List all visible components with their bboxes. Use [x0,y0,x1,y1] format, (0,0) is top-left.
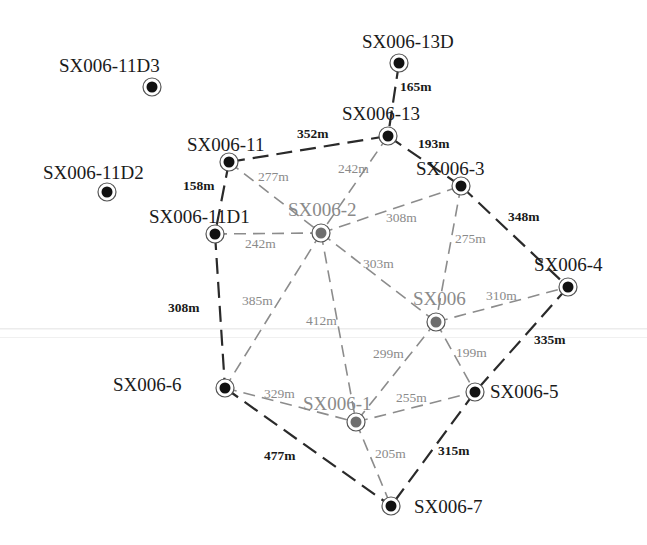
edge-distance-label: 165m [400,79,432,94]
well-node-sx006-2 [312,224,330,242]
well-dot-icon [102,187,113,198]
well-node-sx006-13 [379,127,397,145]
well-dot-icon [316,228,327,239]
edge-distance-label: 310m [486,288,517,303]
edge-distance-label: 303m [363,256,394,271]
well-dot-icon [456,181,467,192]
edge-distance-label: 193m [418,136,450,151]
well-dot-icon [147,82,158,93]
well-label: SX006-4 [534,254,603,275]
well-label: SX006-13 [342,103,420,124]
well-label: SX006-7 [414,496,483,517]
edge-distance-label: 255m [396,390,427,405]
well-node-sx006-11 [220,153,238,171]
well-node-sx006-11d3 [143,78,161,96]
well-label: SX006-11D1 [149,206,250,227]
well-node-sx006-6 [216,379,234,397]
well-node-sx006-11d2 [98,183,116,201]
edge-distance-label: 275m [455,231,486,246]
well-node-sx006-4 [559,278,577,296]
well-node-sx006-7 [382,497,400,515]
well-label: SX006-1 [303,393,372,414]
edge-distance-label: 158m [183,178,215,193]
well-node-sx006-5 [466,383,484,401]
edge-distance-label: 242m [245,236,276,251]
edge-distance-label: 242m [338,161,369,176]
well-label: SX006-5 [490,381,559,402]
well-node-sx006-13d [390,54,408,72]
well-label: SX006-11D3 [59,55,160,76]
well-label: SX006-3 [416,158,485,179]
well-dot-icon [431,317,442,328]
well-dot-icon [470,387,481,398]
edge-distance-label: 308m [168,300,200,315]
edge-distance-label: 335m [534,332,566,347]
well-dot-icon [386,501,397,512]
edge-sx006-11d1-to-sx006-6 [215,234,225,388]
edge-distance-label: 299m [373,346,404,361]
well-node-sx006 [427,313,445,331]
edge-sx006-13d-to-sx006-13 [388,63,399,136]
well-dot-icon [224,157,235,168]
well-dot-icon [383,131,394,142]
well-dot-icon [220,383,231,394]
well-dot-icon [563,282,574,293]
edge-distance-label: 277m [258,169,289,184]
edge-distance-label: 348m [508,209,540,224]
well-label: SX006-6 [113,374,182,395]
well-node-sx006-11d1 [206,225,224,243]
edge-distance-label: 329m [264,386,295,401]
edge-distance-label: 412m [306,313,337,328]
faint-horizontal-band [0,328,647,330]
edge-distance-label: 352m [297,126,329,141]
node-labels-layer: SX006-11D3SX006-13DSX006-13SX006-11SX006… [43,31,603,517]
well-dot-icon [394,58,405,69]
nodes-layer [98,54,577,515]
well-label: SX006-11D2 [43,162,144,183]
well-node-sx006-3 [452,177,470,195]
edge-distance-label: 205m [375,446,406,461]
edge-sx006-2-to-sx006-6 [225,233,321,388]
edge-distance-label: 385m [242,293,273,308]
well-dot-icon [351,417,362,428]
well-label: SX006-11 [187,134,264,155]
well-label: SX006-2 [288,199,357,220]
well-dot-icon [210,229,221,240]
well-label: SX006-13D [362,31,454,52]
edge-distance-label: 477m [264,448,296,463]
edge-sx006-11d1-to-sx006-2 [215,233,321,234]
edge-distance-label: 199m [456,345,487,360]
well-label: SX006 [413,288,466,309]
edge-distance-label: 308m [386,210,417,225]
edge-distance-label: 315m [438,443,470,458]
well-network-diagram: 165m352m193m277m242m158m308m242m348m275m… [0,0,647,545]
well-node-sx006-1 [347,413,365,431]
